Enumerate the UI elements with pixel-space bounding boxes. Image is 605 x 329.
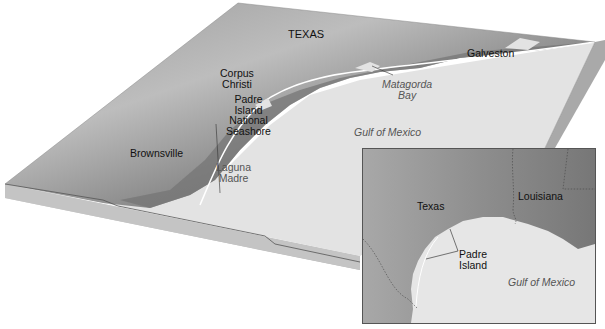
label-gulf-of-mexico: Gulf of Mexico — [354, 127, 421, 138]
inset-label-texas: Texas — [417, 201, 444, 212]
inset-label-padre-island: Padre Island — [459, 249, 487, 271]
label-brownsville: Brownsville — [130, 148, 183, 159]
label-padre-island-national-seashore: Padre Island National Seashore — [226, 94, 271, 137]
label-matagorda-bay: Matagorda Bay — [382, 79, 432, 101]
inset-label-gulf-of-mexico: Gulf of Mexico — [508, 277, 575, 288]
label-corpus-christi: Corpus Christi — [220, 68, 254, 90]
label-texas: TEXAS — [288, 29, 324, 40]
label-laguna-madre: Laguna Madre — [216, 162, 251, 184]
inset-terrain — [363, 149, 595, 323]
label-galveston: Galveston — [467, 48, 514, 59]
inset-map: Texas Louisiana Padre Island Gulf of Mex… — [362, 148, 596, 324]
inset-label-louisiana: Louisiana — [518, 191, 563, 202]
